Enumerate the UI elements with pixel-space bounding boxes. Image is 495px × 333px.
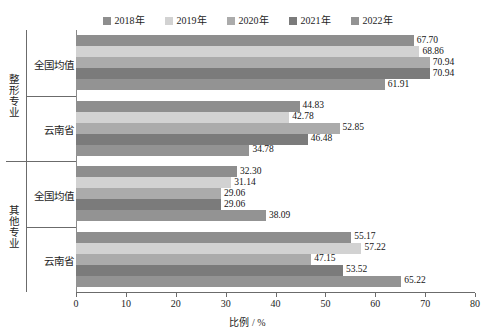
bar-2021年[interactable] bbox=[76, 199, 221, 210]
bar-2018年[interactable] bbox=[76, 101, 300, 112]
legend-swatch-icon bbox=[165, 17, 173, 25]
legend-swatch-icon bbox=[289, 17, 297, 25]
bar-value-label: 29.06 bbox=[221, 189, 245, 199]
bar-row: 29.06 bbox=[76, 188, 475, 199]
bar-row: 47.15 bbox=[76, 254, 475, 265]
x-axis-tick bbox=[176, 293, 177, 297]
bar-value-label: 52.85 bbox=[340, 124, 364, 134]
x-axis-tick-label: 70 bbox=[420, 299, 430, 309]
bar-2021年[interactable] bbox=[76, 134, 308, 145]
bar-2020年[interactable] bbox=[76, 123, 340, 134]
legend-item-2021年[interactable]: 2021年 bbox=[289, 16, 331, 26]
bar-chart: 2018年2019年2020年2021年2022年 67.7068.8670.9… bbox=[0, 0, 495, 333]
legend-item-2018年[interactable]: 2018年 bbox=[103, 16, 145, 26]
bar-value-label: 68.86 bbox=[419, 47, 443, 57]
bar-2019年[interactable] bbox=[76, 112, 289, 123]
bar-row: 52.85 bbox=[76, 123, 475, 134]
bar-row: 53.52 bbox=[76, 265, 475, 276]
bar-row: 70.94 bbox=[76, 57, 475, 68]
bar-value-label: 47.15 bbox=[311, 255, 335, 265]
plot-area: 67.7068.8670.9470.9461.9144.8342.7852.85… bbox=[76, 30, 475, 292]
bar-group: 67.7068.8670.9470.9461.91 bbox=[76, 30, 475, 96]
bar-2020年[interactable] bbox=[76, 188, 221, 199]
bar-2022年[interactable] bbox=[76, 79, 385, 90]
bar-value-label: 34.78 bbox=[249, 146, 273, 156]
bar-row: 38.09 bbox=[76, 210, 475, 221]
bar-row: 31.14 bbox=[76, 177, 475, 188]
bar-value-label: 46.48 bbox=[308, 135, 332, 145]
bar-row: 32.30 bbox=[76, 166, 475, 177]
bar-value-label: 42.78 bbox=[289, 113, 313, 123]
chart-legend: 2018年2019年2020年2021年2022年 bbox=[0, 13, 495, 29]
bar-2018年[interactable] bbox=[76, 35, 414, 46]
legend-label: 2021年 bbox=[301, 16, 331, 26]
legend-label: 2020年 bbox=[239, 16, 269, 26]
y-axis-separator bbox=[26, 96, 76, 97]
x-axis-tick-label: 0 bbox=[74, 299, 79, 309]
bar-value-label: 67.70 bbox=[414, 36, 438, 46]
x-axis-tick-label: 40 bbox=[271, 299, 281, 309]
legend-item-2019年[interactable]: 2019年 bbox=[165, 16, 207, 26]
bar-group: 32.3031.1429.0629.0638.09 bbox=[76, 161, 475, 227]
legend-swatch-icon bbox=[103, 17, 111, 25]
bar-row: 29.06 bbox=[76, 199, 475, 210]
bar-row: 70.94 bbox=[76, 68, 475, 79]
bar-row: 57.22 bbox=[76, 243, 475, 254]
y-axis-group-label: 其他专业 bbox=[6, 200, 20, 254]
x-axis-tick-label: 10 bbox=[121, 299, 131, 309]
bar-row: 65.22 bbox=[76, 276, 475, 287]
bar-2022年[interactable] bbox=[76, 145, 249, 156]
x-axis-tick-label: 30 bbox=[221, 299, 231, 309]
bar-value-label: 29.06 bbox=[221, 200, 245, 210]
bar-2022年[interactable] bbox=[76, 276, 401, 287]
y-axis-category-label: 全国均值 bbox=[26, 57, 76, 72]
bar-value-label: 61.91 bbox=[385, 80, 409, 90]
bar-row: 44.83 bbox=[76, 101, 475, 112]
bar-value-label: 53.52 bbox=[343, 266, 367, 276]
legend-item-2022年[interactable]: 2022年 bbox=[351, 16, 393, 26]
bar-row: 67.70 bbox=[76, 35, 475, 46]
bar-value-label: 55.17 bbox=[351, 233, 375, 243]
bar-value-label: 31.14 bbox=[231, 178, 255, 188]
y-axis-separator bbox=[26, 227, 76, 228]
y-axis-category-label: 云南省 bbox=[26, 253, 76, 268]
x-axis-tick bbox=[325, 293, 326, 297]
x-axis-tick bbox=[425, 293, 426, 297]
legend-swatch-icon bbox=[227, 17, 235, 25]
x-axis-tick bbox=[226, 293, 227, 297]
bar-value-label: 57.22 bbox=[361, 244, 385, 254]
bar-value-label: 44.83 bbox=[300, 102, 324, 112]
bar-row: 68.86 bbox=[76, 46, 475, 57]
bar-value-label: 38.09 bbox=[266, 211, 290, 221]
x-axis-title: 比例 / % bbox=[0, 314, 495, 329]
bar-2018年[interactable] bbox=[76, 166, 237, 177]
bar-2019年[interactable] bbox=[76, 243, 361, 254]
bar-2020年[interactable] bbox=[76, 57, 430, 68]
bar-value-label: 70.94 bbox=[430, 58, 454, 68]
bar-2019年[interactable] bbox=[76, 46, 419, 57]
x-axis-tick-label: 20 bbox=[171, 299, 181, 309]
bar-group: 55.1757.2247.1553.5265.22 bbox=[76, 227, 475, 293]
bar-row: 42.78 bbox=[76, 112, 475, 123]
x-axis-tick-label: 50 bbox=[320, 299, 330, 309]
bar-2021年[interactable] bbox=[76, 68, 430, 79]
y-axis-category-label: 全国均值 bbox=[26, 188, 76, 203]
legend-item-2020年[interactable]: 2020年 bbox=[227, 16, 269, 26]
bar-2020年[interactable] bbox=[76, 254, 311, 265]
bar-2021年[interactable] bbox=[76, 265, 343, 276]
x-axis-tick-label: 60 bbox=[370, 299, 380, 309]
x-axis-tick bbox=[276, 293, 277, 297]
bar-2018年[interactable] bbox=[76, 232, 351, 243]
bar-row: 55.17 bbox=[76, 232, 475, 243]
bar-group: 44.8342.7852.8546.4834.78 bbox=[76, 96, 475, 162]
legend-label: 2019年 bbox=[177, 16, 207, 26]
legend-label: 2018年 bbox=[115, 16, 145, 26]
bar-value-label: 65.22 bbox=[401, 277, 425, 287]
legend-swatch-icon bbox=[351, 17, 359, 25]
x-axis-tick bbox=[126, 293, 127, 297]
bar-2019年[interactable] bbox=[76, 177, 231, 188]
bar-row: 34.78 bbox=[76, 145, 475, 156]
bar-2022年[interactable] bbox=[76, 210, 266, 221]
x-axis-tick bbox=[375, 293, 376, 297]
y-axis-group-separator bbox=[6, 161, 76, 162]
